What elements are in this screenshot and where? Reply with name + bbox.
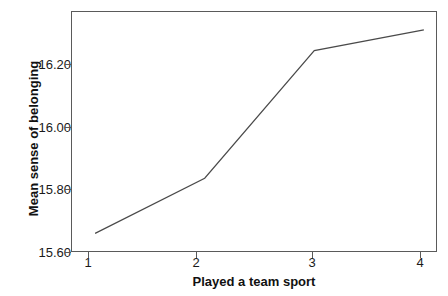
x-tick-label-4: 4 xyxy=(405,256,435,269)
plot-area xyxy=(71,11,437,252)
y-tick-mark-15-60 xyxy=(65,252,71,253)
x-tick-label-3: 3 xyxy=(297,256,327,269)
y-tick-mark-15-80 xyxy=(65,189,71,190)
y-tick-mark-16-20 xyxy=(65,64,71,65)
chart-figure: 16.20 16.00 15.80 15.60 1 2 3 4 Mean sen… xyxy=(0,0,448,296)
x-axis-title: Played a team sport xyxy=(71,274,437,289)
x-tick-label-1: 1 xyxy=(73,256,103,269)
y-tick-mark-16-00 xyxy=(65,127,71,128)
y-axis-title: Mean sense of belonging xyxy=(26,29,41,249)
x-tick-label-2: 2 xyxy=(181,256,211,269)
series-line xyxy=(95,30,424,233)
